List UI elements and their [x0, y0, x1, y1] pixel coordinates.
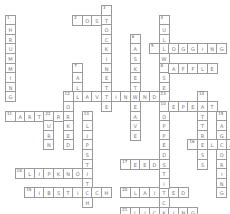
cell-letter: H — [83, 200, 92, 206]
cell-letter: T — [131, 85, 140, 91]
cell-letter: A — [131, 46, 140, 52]
cell-letter: E — [64, 133, 73, 139]
cell-letter: N — [44, 142, 53, 148]
cell-letter: E — [102, 75, 111, 81]
clue-number: 2 — [74, 16, 77, 20]
clue-number: 15 — [218, 112, 223, 116]
clue-number: 20 — [122, 188, 127, 192]
cell-letter: O — [160, 114, 169, 120]
cell-letter: I — [6, 75, 15, 81]
cell-letter: R — [64, 114, 73, 120]
clue-number: 6 — [132, 35, 135, 39]
crossword-cell[interactable]: E — [207, 63, 218, 74]
cell-letter: A — [131, 114, 140, 120]
cell-letter: V — [131, 123, 140, 129]
clue-number: 8 — [161, 64, 164, 68]
cell-letter: G — [217, 133, 226, 139]
clue-number: 10 — [161, 102, 166, 106]
cell-letter: D — [179, 190, 188, 196]
cell-letter: E — [131, 104, 140, 110]
clue-number: 1 — [7, 16, 10, 20]
crossword-cell[interactable]: H — [101, 187, 112, 198]
crossword-cell[interactable]: O — [72, 168, 83, 179]
cell-letter: T — [102, 18, 111, 24]
cell-letter: P — [83, 142, 92, 148]
cell-letter: D — [64, 142, 73, 148]
crossword-cell[interactable]: H — [82, 197, 93, 208]
crossword-cell[interactable]: 5 — [149, 43, 160, 54]
cell-letter: I — [83, 171, 92, 177]
cell-letter: G — [217, 46, 226, 52]
cell-letter: C — [102, 37, 111, 43]
cell-letter: O — [73, 171, 82, 177]
cell-letter: A — [227, 142, 230, 148]
clue-number: 5 — [151, 44, 154, 48]
crossword-cell[interactable]: 14 — [197, 91, 208, 102]
cell-letter: S — [160, 75, 169, 81]
clue-number: 14 — [199, 92, 204, 96]
cell-letter: T — [83, 162, 92, 168]
crossword-cell[interactable]: D — [63, 139, 74, 150]
clue-number: 11 — [7, 112, 12, 116]
clue-number: 22 — [45, 112, 50, 116]
cell-letter: P — [160, 123, 169, 129]
crossword-cell[interactable]: I — [159, 178, 170, 189]
clue-number: 18 — [17, 169, 22, 173]
cell-letter: A — [217, 123, 226, 129]
cell-letter: P — [160, 133, 169, 139]
clue-number: 3 — [103, 6, 106, 10]
cell-letter: E — [160, 142, 169, 148]
cell-letter: T — [198, 123, 207, 129]
cell-letter: T — [83, 181, 92, 187]
cell-letter: I — [160, 181, 169, 187]
crossword-cell[interactable]: L — [207, 139, 218, 150]
cell-letter: K — [131, 66, 140, 72]
crossword-cell[interactable]: G — [187, 207, 198, 214]
cell-letter: L — [83, 123, 92, 129]
cell-letter: T — [102, 85, 111, 91]
crossword-cell[interactable]: A — [226, 139, 230, 150]
cell-letter: S — [198, 152, 207, 158]
crossword-cell[interactable]: S — [197, 159, 208, 170]
clue-number: 21 — [122, 208, 127, 212]
cell-letter: I — [217, 171, 226, 177]
crossword-cell[interactable]: V — [91, 91, 102, 102]
crossword-cell[interactable]: N — [43, 139, 54, 150]
cell-letter: E — [160, 85, 169, 91]
cell-letter: O — [64, 104, 73, 110]
cell-letter: G — [188, 210, 197, 214]
crossword-cell[interactable]: D — [178, 187, 189, 198]
cell-letter: U — [160, 27, 169, 33]
cell-letter: K — [102, 46, 111, 52]
cell-letter: U — [6, 46, 15, 52]
crossword-cell[interactable]: G — [216, 187, 227, 198]
cell-letter: L — [73, 85, 82, 91]
crossword-cell[interactable]: 16 — [187, 139, 198, 150]
crossword-cell[interactable]: E — [101, 101, 112, 112]
cell-letter: S — [131, 56, 140, 62]
cell-letter: L — [208, 142, 217, 148]
cell-letter: R — [6, 37, 15, 43]
cell-letter: N — [217, 181, 226, 187]
crossword-cell[interactable]: G — [5, 91, 16, 102]
cell-letter: U — [44, 123, 53, 129]
cell-letter: E — [102, 104, 111, 110]
crossword-cell[interactable]: E — [130, 130, 141, 141]
crossword-cell[interactable]: C — [159, 197, 170, 208]
cell-letter: E — [131, 133, 140, 139]
crossword-cell[interactable]: G — [216, 43, 227, 54]
cell-letter: N — [6, 85, 15, 91]
crossword-cell[interactable]: I — [72, 187, 83, 198]
cell-letter: S — [83, 152, 92, 158]
cell-letter: T — [160, 171, 169, 177]
crossword-cell[interactable]: N — [120, 91, 131, 102]
cell-letter: S — [198, 162, 207, 168]
cell-letter: R — [44, 133, 53, 139]
cell-letter: I — [83, 133, 92, 139]
cell-letter: V — [92, 94, 101, 100]
cell-letter: O — [217, 152, 226, 158]
crossword-cell[interactable]: 3 — [101, 5, 112, 16]
cell-letter: E — [208, 66, 217, 72]
clue-number: 16 — [189, 140, 194, 144]
clue-number: 23 — [161, 92, 166, 96]
